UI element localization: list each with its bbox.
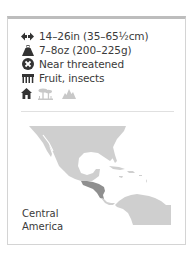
status-text: Near threatened xyxy=(39,57,124,71)
fact-status: Near threatened xyxy=(21,57,148,71)
mountain-icon xyxy=(62,88,76,99)
diet-text: Fruit, insects xyxy=(39,71,104,85)
weight-text: 7–8oz (200–225g) xyxy=(39,43,131,57)
map-range-central-america xyxy=(81,181,105,199)
map-region-label-line1: Central xyxy=(22,207,63,220)
diet-icon xyxy=(21,73,34,84)
habitat-icons xyxy=(21,86,148,100)
weight-icon xyxy=(21,45,34,56)
map-region-label: Central America xyxy=(22,207,63,233)
fact-length: 14–26in (35–65½cm) xyxy=(21,29,148,43)
fact-diet: Fruit, insects xyxy=(21,71,148,85)
house-icon xyxy=(21,88,33,99)
conservation-status-icon xyxy=(21,59,34,70)
facts-list: 14–26in (35–65½cm) 7–8oz (200–225g) Near… xyxy=(21,29,148,100)
divider xyxy=(21,111,174,112)
length-text: 14–26in (35–65½cm) xyxy=(39,29,148,43)
tree-savanna-icon xyxy=(38,88,53,99)
map-region-label-line2: America xyxy=(22,220,63,233)
species-fact-card: 14–26in (35–65½cm) 7–8oz (200–225g) Near… xyxy=(7,16,186,245)
length-arrows-icon xyxy=(21,31,34,42)
fact-weight: 7–8oz (200–225g) xyxy=(21,43,148,57)
map-land-south-america xyxy=(115,194,171,225)
